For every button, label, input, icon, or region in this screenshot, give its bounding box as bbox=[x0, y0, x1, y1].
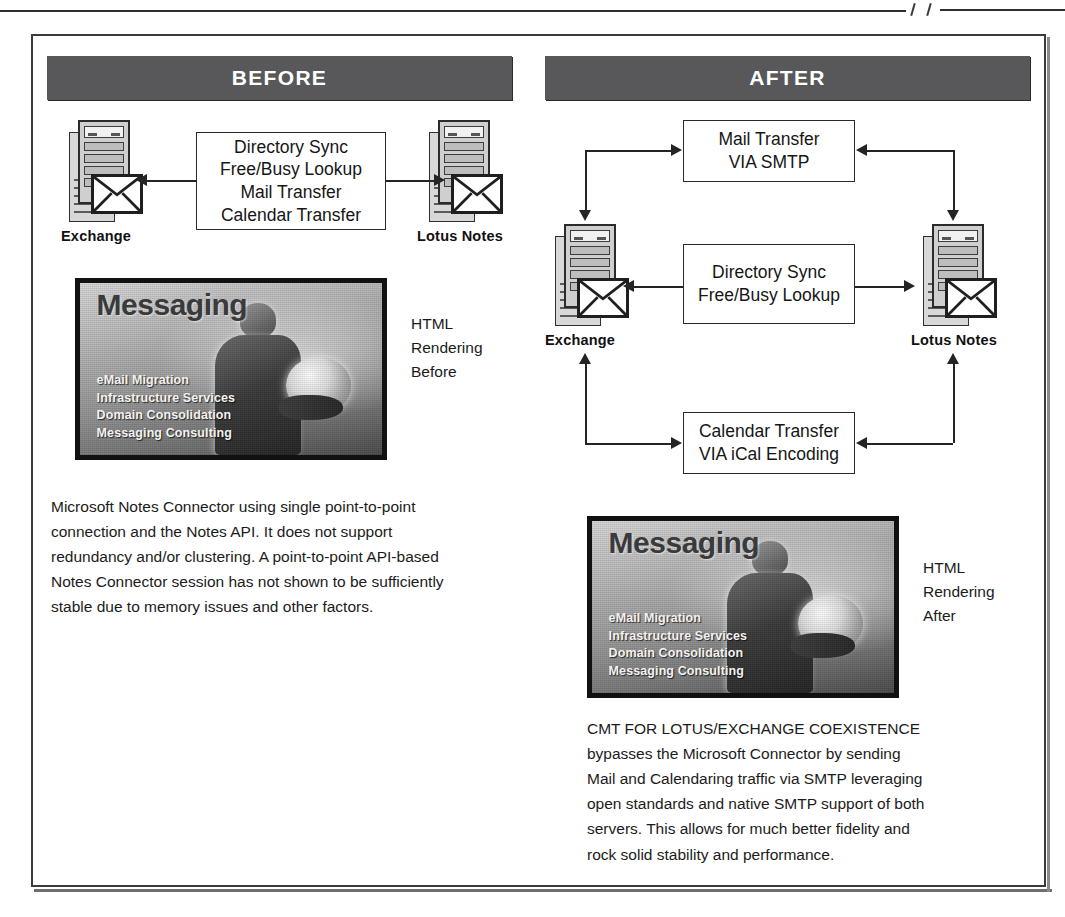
after-mail-left-arrowhead bbox=[671, 144, 682, 156]
figure-frame: BEFORE AFTER bbox=[31, 34, 1046, 887]
after-header-bar: AFTER bbox=[545, 56, 1030, 100]
after-mail-right-arrowhead bbox=[856, 144, 867, 156]
after-poster-image: Messaging eMail Migration Infrastructure… bbox=[587, 516, 899, 698]
server-icon bbox=[69, 120, 135, 224]
after-cal-left-arrowhead bbox=[671, 437, 682, 449]
after-cal-left-vline bbox=[585, 364, 587, 443]
envelope-icon bbox=[577, 278, 629, 318]
before-poster-bullet-2: Infrastructure Services bbox=[97, 390, 235, 408]
before-para-line-5: stable due to memory issues and other fa… bbox=[51, 594, 521, 619]
page-rule-tick-1 bbox=[910, 3, 915, 16]
after-cal-right-vline bbox=[953, 364, 955, 443]
before-flow-line-1: Directory Sync bbox=[234, 136, 348, 159]
before-caption-line-1: HTML bbox=[411, 312, 483, 336]
envelope-icon bbox=[945, 278, 997, 318]
server-bezel bbox=[444, 126, 484, 138]
before-para-line-3: redundancy and/or clustering. A point-to… bbox=[51, 544, 521, 569]
after-cal-box-line-1: Calendar Transfer bbox=[699, 420, 839, 443]
after-mail-left-vline bbox=[585, 150, 587, 210]
after-mail-box-line-2: VIA SMTP bbox=[729, 151, 810, 174]
after-poster-bullet-4: Messaging Consulting bbox=[609, 663, 747, 681]
before-header-bar: BEFORE bbox=[47, 56, 512, 100]
server-bezel bbox=[84, 126, 124, 138]
after-lotus-server: Lotus Notes bbox=[923, 224, 997, 348]
after-caption-line-2: Rendering bbox=[923, 580, 995, 604]
after-lotus-label: Lotus Notes bbox=[911, 332, 997, 348]
before-flow-box: Directory Sync Free/Busy Lookup Mail Tra… bbox=[196, 132, 386, 230]
before-arrow-left-head bbox=[136, 174, 147, 186]
server-bezel bbox=[570, 230, 610, 242]
envelope-icon bbox=[451, 174, 503, 214]
after-calendar-transfer-box: Calendar Transfer VIA iCal Encoding bbox=[683, 412, 855, 474]
before-flow-line-2: Free/Busy Lookup bbox=[220, 158, 362, 181]
server-bezel bbox=[938, 230, 978, 242]
figure-frame-shadow-right bbox=[1047, 37, 1050, 892]
after-dir-right-arrowhead bbox=[904, 280, 915, 292]
figure-frame-shadow-bottom bbox=[34, 889, 1052, 892]
after-para-line-1: CMT FOR LOTUS/EXCHANGE COEXISTENCE bbox=[587, 716, 1027, 741]
before-flow-line-4: Calendar Transfer bbox=[221, 204, 361, 227]
after-exchange-server: Exchange bbox=[555, 224, 621, 348]
before-header-label: BEFORE bbox=[232, 66, 327, 90]
after-mail-right-hline bbox=[867, 150, 953, 152]
after-cal-left-hline bbox=[585, 443, 671, 445]
after-para-line-4: open standards and native SMTP support o… bbox=[587, 791, 1027, 816]
after-poster-bullet-3: Domain Consolidation bbox=[609, 645, 747, 663]
after-para-line-3: Mail and Calendaring traffic via SMTP le… bbox=[587, 766, 1027, 791]
before-arrow-right-line bbox=[386, 180, 434, 182]
after-mail-right-vline bbox=[953, 150, 955, 210]
after-mail-box-line-1: Mail Transfer bbox=[718, 128, 819, 151]
after-dir-box-line-1: Directory Sync bbox=[712, 261, 826, 284]
after-poster-bullet-2: Infrastructure Services bbox=[609, 628, 747, 646]
before-poster-image: Messaging eMail Migration Infrastructure… bbox=[75, 278, 387, 460]
after-cal-box-line-2: VIA iCal Encoding bbox=[699, 443, 839, 466]
after-cal-right-arrowhead bbox=[856, 437, 867, 449]
after-cal-left-uphead bbox=[579, 353, 591, 364]
before-poster-bullet-3: Domain Consolidation bbox=[97, 407, 235, 425]
after-cal-right-uphead bbox=[947, 353, 959, 364]
after-mail-right-downhead bbox=[947, 210, 959, 221]
after-dir-box-line-2: Free/Busy Lookup bbox=[698, 284, 840, 307]
page-rule-segment-left bbox=[0, 10, 906, 12]
before-lotus-label: Lotus Notes bbox=[417, 228, 503, 244]
after-para-line-2: bypasses the Microsoft Connector by send… bbox=[587, 741, 1027, 766]
before-poster-bullet-4: Messaging Consulting bbox=[97, 425, 235, 443]
before-exchange-label: Exchange bbox=[61, 228, 135, 244]
before-poster-title: Messaging bbox=[97, 288, 248, 322]
after-caption-line-3: After bbox=[923, 604, 995, 628]
before-para-line-1: Microsoft Notes Connector using single p… bbox=[51, 494, 521, 519]
after-header-label: AFTER bbox=[749, 66, 826, 90]
before-caption-line-2: Rendering bbox=[411, 336, 483, 360]
after-caption-line-1: HTML bbox=[923, 556, 995, 580]
before-arrow-left-line bbox=[147, 180, 196, 182]
before-exchange-server: Exchange bbox=[69, 120, 135, 244]
after-dir-left-arrowhead bbox=[623, 280, 634, 292]
after-mail-transfer-box: Mail Transfer VIA SMTP bbox=[683, 120, 855, 182]
after-poster-bullet-1: eMail Migration bbox=[609, 610, 747, 628]
before-poster-bullet-1: eMail Migration bbox=[97, 372, 235, 390]
before-para-line-2: connection and the Notes API. It does no… bbox=[51, 519, 521, 544]
after-exchange-label: Exchange bbox=[545, 332, 621, 348]
page-rule-tick-2 bbox=[926, 3, 931, 16]
after-para-line-5: servers. This allows for much better fid… bbox=[587, 816, 1027, 841]
page-top-rule bbox=[0, 9, 1065, 12]
server-icon bbox=[429, 120, 495, 224]
after-description-paragraph: CMT FOR LOTUS/EXCHANGE COEXISTENCE bypas… bbox=[587, 716, 1027, 867]
page-rule-segment-right bbox=[940, 9, 1065, 11]
before-poster-caption: HTML Rendering Before bbox=[411, 312, 483, 384]
after-mail-left-hline bbox=[585, 150, 671, 152]
after-directory-sync-box: Directory Sync Free/Busy Lookup bbox=[683, 244, 855, 324]
after-mail-left-downhead bbox=[579, 210, 591, 221]
before-flow-line-3: Mail Transfer bbox=[240, 181, 341, 204]
before-para-line-4: Notes Connector session has not shown to… bbox=[51, 569, 521, 594]
after-cal-right-hline bbox=[867, 443, 953, 445]
server-icon bbox=[923, 224, 989, 328]
after-poster-caption: HTML Rendering After bbox=[923, 556, 995, 628]
before-poster-bullets: eMail Migration Infrastructure Services … bbox=[97, 372, 235, 443]
before-caption-line-3: Before bbox=[411, 360, 483, 384]
after-para-line-6: rock solid stability and performance. bbox=[587, 842, 1027, 867]
after-dir-right-line bbox=[855, 286, 904, 288]
before-description-paragraph: Microsoft Notes Connector using single p… bbox=[51, 494, 521, 620]
after-poster-title: Messaging bbox=[609, 526, 760, 560]
after-poster-bullets: eMail Migration Infrastructure Services … bbox=[609, 610, 747, 681]
